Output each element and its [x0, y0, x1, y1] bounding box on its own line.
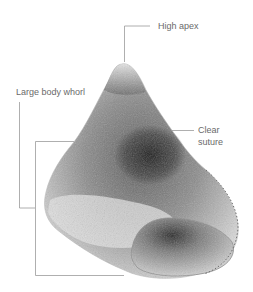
- label-high-apex: High apex: [158, 20, 199, 32]
- apex-leader: [125, 26, 151, 62]
- whorl-leader: [20, 102, 36, 208]
- shell-diagram: High apex Large body whorl Clear suture: [0, 0, 253, 292]
- label-clear-suture: Clear suture: [198, 124, 238, 148]
- label-large-body-whorl: Large body whorl: [16, 86, 85, 98]
